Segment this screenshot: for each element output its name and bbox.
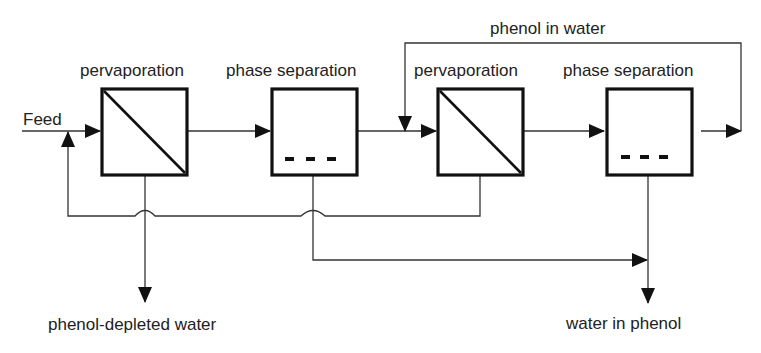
phase-interface-icon bbox=[285, 157, 294, 161]
recycle-label: phenol in water bbox=[490, 20, 605, 37]
phase-separation-unit-2 bbox=[607, 89, 692, 175]
phase-interface-icon bbox=[621, 155, 630, 159]
phase-separation-unit-1 bbox=[272, 89, 357, 175]
unit-label-pv2: pervaporation bbox=[414, 62, 518, 79]
process-flow-diagram bbox=[0, 0, 761, 353]
unit-label-ps1: phase separation bbox=[226, 62, 356, 79]
product-label-right: water in phenol bbox=[566, 315, 681, 332]
unit-label-pv1: pervaporation bbox=[80, 62, 184, 79]
product-label-left: phenol-depleted water bbox=[48, 316, 216, 333]
feed-label: Feed bbox=[23, 111, 62, 128]
unit-label-ps2: phase separation bbox=[563, 62, 693, 79]
